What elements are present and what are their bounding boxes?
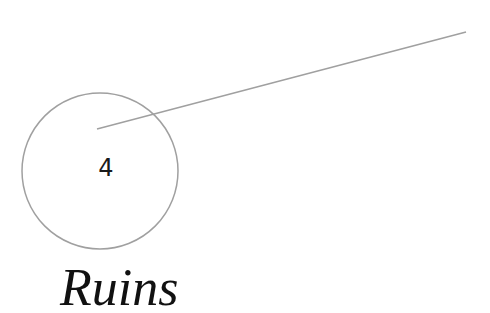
leader-line <box>97 32 466 129</box>
marker-number: 4 <box>90 154 122 182</box>
section-title: Ruins <box>60 262 178 313</box>
